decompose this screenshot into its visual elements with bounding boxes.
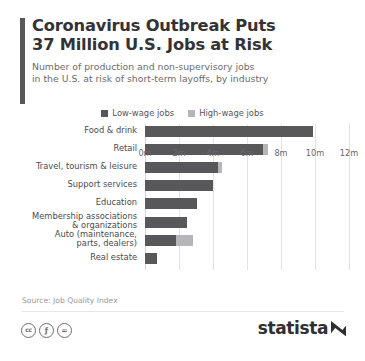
category-label: Education [0,198,141,207]
legend-label-low-wage: Low-wage jobs [112,108,174,118]
x-tick-label-8m: 8m [274,148,287,158]
bar-segment-low-wage [145,253,157,264]
x-tick-label-2m: 2m [172,148,185,158]
bar-row [145,162,222,173]
category-label-line: Travel, tourism & leisure [0,162,137,171]
statista-wordmark: statista [258,320,328,337]
title-accent-bar [20,18,25,104]
legend-item-high-wage: High-wage jobs [188,108,264,118]
subtitle-line-2: in the U.S. at risk of short-term layoff… [32,73,346,85]
creative-commons-icon-glyph: cc [25,327,31,333]
x-tick-label-4m: 4m [206,148,219,158]
title-line-1: Coronavirus Outbreak Puts [32,16,346,35]
bar-segment-low-wage [145,198,197,209]
bar-row [145,180,213,191]
category-label-line: Support services [0,180,137,189]
statista-arrow-icon [331,321,346,336]
footer-divider [22,311,344,312]
x-tick-label-6m: 6m [240,148,253,158]
category-label-line: Real estate [0,253,137,262]
bar-segment-low-wage [145,162,218,173]
category-label-line: Education [0,198,137,207]
page-subtitle: Number of production and non-supervisory… [32,61,346,85]
category-label: Food & drink [0,126,141,135]
page-title: Coronavirus Outbreak Puts 37 Million U.S… [32,16,346,54]
creative-commons-badges: ccƒ= [21,323,72,338]
category-label-line: parts, dealers) [0,239,137,248]
bar-row [145,198,197,209]
bar-segment-low-wage [145,126,313,137]
category-label: Travel, tourism & leisure [0,162,141,171]
bar-segment-low-wage [145,235,176,246]
category-label: Retail [0,144,141,153]
subtitle-line-1: Number of production and non-supervisory… [32,61,346,73]
bar-row [145,126,313,137]
cc-by-attribution-icon[interactable]: ƒ [39,323,54,338]
category-label: Real estate [0,253,141,262]
legend-swatch-low-wage [101,110,108,117]
bar-row [145,253,157,264]
category-label-line: Food & drink [0,126,137,135]
x-tick-label-12m: 12m [340,148,358,158]
legend-swatch-high-wage [188,110,195,117]
header: Coronavirus Outbreak Puts 37 Million U.S… [20,16,346,85]
x-tick-label-0m: 0m [138,148,151,158]
bar-segment-high-wage [218,162,222,173]
category-label: Membership associations& organizations [0,212,141,231]
title-line-2: 37 Million U.S. Jobs at Risk [32,35,346,54]
chart-legend: Low-wage jobs High-wage jobs [0,108,365,118]
bar-segment-low-wage [145,180,213,191]
statista-infographic: Coronavirus Outbreak Puts 37 Million U.S… [0,0,365,361]
category-label-line: Retail [0,144,137,153]
bar-row [145,235,193,246]
header-text: Coronavirus Outbreak Puts 37 Million U.S… [32,16,346,85]
footer: ccƒ= statista [0,320,365,352]
category-axis-labels: Food & drinkRetailTravel, tourism & leis… [0,124,141,270]
bar-row [145,217,187,228]
legend-item-low-wage: Low-wage jobs [101,108,174,118]
cc-nd-noderivatives-icon-glyph: = [61,327,67,335]
cc-by-attribution-icon-glyph: ƒ [45,327,48,335]
value-axis: 0m2m4m6m8m10m12m [145,146,349,162]
bar-segment-high-wage [176,235,193,246]
legend-label-high-wage: High-wage jobs [199,108,264,118]
statista-logo: statista [258,320,346,337]
bar-segment-low-wage [145,217,187,228]
gridline-12m [349,124,350,270]
x-tick-label-10m: 10m [306,148,324,158]
creative-commons-icon[interactable]: cc [21,323,36,338]
cc-nd-noderivatives-icon[interactable]: = [57,323,72,338]
category-label: Auto (maintenance,parts, dealers) [0,230,141,249]
source-note: Source: Job Quality Index [22,296,118,305]
category-label: Support services [0,180,141,189]
